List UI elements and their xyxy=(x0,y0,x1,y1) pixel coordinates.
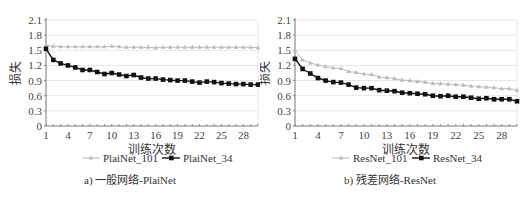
data-point xyxy=(392,89,397,94)
y-axis-title: 损失 xyxy=(260,61,272,85)
y-tick-label: 0.9 xyxy=(277,75,291,87)
x-tick-label: 7 xyxy=(338,129,344,141)
data-point xyxy=(58,61,63,66)
data-point xyxy=(293,57,298,62)
data-point xyxy=(102,72,107,77)
x-tick-label: 10 xyxy=(358,129,370,141)
x-tick-label: 10 xyxy=(106,129,118,141)
data-point xyxy=(300,67,305,72)
data-point xyxy=(308,71,313,76)
data-point xyxy=(80,68,85,73)
data-point xyxy=(241,82,246,87)
x-tick-label: 19 xyxy=(172,129,184,141)
x-tick-label: 1 xyxy=(43,129,49,141)
y-tick-label: 0.6 xyxy=(277,90,291,102)
data-point xyxy=(476,96,481,101)
data-point xyxy=(175,78,180,83)
data-point xyxy=(484,96,489,101)
data-point xyxy=(95,70,100,75)
line-chart-resnet: 00.30.60.91.21.51.82.114710131619222528训… xyxy=(260,0,520,199)
x-tick-label: 16 xyxy=(150,129,162,141)
data-point xyxy=(385,88,390,93)
data-point xyxy=(438,94,443,99)
data-point xyxy=(415,91,420,96)
data-point xyxy=(234,82,239,87)
data-point xyxy=(117,72,122,77)
data-point xyxy=(109,71,114,76)
data-point xyxy=(226,81,231,86)
data-point xyxy=(408,91,413,96)
data-point xyxy=(44,46,49,51)
data-point xyxy=(323,78,328,83)
y-axis-title: 损失 xyxy=(8,61,23,85)
data-point xyxy=(430,93,435,98)
data-point xyxy=(446,93,451,98)
data-point xyxy=(248,82,253,87)
data-point xyxy=(400,90,405,95)
y-tick-label: 1.8 xyxy=(28,29,42,41)
x-tick-label: 25 xyxy=(216,129,228,141)
chart-caption: b) 残差网络-ResNet xyxy=(344,173,436,187)
legend: PlaiNet_101PlaiNet_34 xyxy=(82,152,233,164)
y-tick-label: 0 xyxy=(37,120,43,132)
chart-panel-plainet: 00.30.60.91.21.51.82.114710131619222528训… xyxy=(0,0,260,199)
data-point xyxy=(499,97,504,102)
legend-label: ResNet_34 xyxy=(433,152,482,164)
data-point xyxy=(109,44,114,48)
data-point xyxy=(377,88,382,93)
y-tick-label: 1.5 xyxy=(277,44,291,56)
y-tick-label: 0.9 xyxy=(28,75,42,87)
data-point xyxy=(183,78,188,83)
y-tick-label: 1.2 xyxy=(277,59,291,71)
data-point xyxy=(219,81,224,86)
data-point xyxy=(153,76,158,81)
x-tick-label: 16 xyxy=(404,129,416,141)
x-tick-label: 22 xyxy=(194,129,205,141)
x-tick-label: 25 xyxy=(473,129,485,141)
data-point xyxy=(168,78,173,83)
data-point xyxy=(453,94,458,99)
x-tick-label: 1 xyxy=(292,129,298,141)
legend: ResNet_101ResNet_34 xyxy=(332,152,482,164)
x-tick-label: 19 xyxy=(427,129,439,141)
x-tick-label: 22 xyxy=(450,129,461,141)
data-point xyxy=(66,63,71,68)
legend-label: ResNet_101 xyxy=(353,152,407,164)
y-tick-label: 1.8 xyxy=(277,29,291,41)
legend-label: PlaiNet_34 xyxy=(183,152,233,164)
series-PlaiNet_101 xyxy=(44,43,260,50)
data-point xyxy=(469,95,474,100)
data-point xyxy=(423,92,428,97)
y-tick-label: 1.2 xyxy=(28,59,42,71)
data-point xyxy=(461,94,466,99)
x-tick-label: 28 xyxy=(496,129,508,141)
x-tick-label: 7 xyxy=(87,129,93,141)
data-point xyxy=(51,58,56,63)
legend-label: PlaiNet_101 xyxy=(103,152,158,164)
x-tick-label: 28 xyxy=(238,129,250,141)
data-point xyxy=(369,86,374,91)
y-tick-label: 0.6 xyxy=(28,90,42,102)
x-tick-label: 13 xyxy=(128,129,140,141)
data-point xyxy=(73,65,78,70)
legend-marker-square-icon xyxy=(419,156,424,161)
data-point xyxy=(316,76,321,81)
data-point xyxy=(131,73,136,78)
y-tick-label: 0 xyxy=(286,120,292,132)
x-tick-label: 4 xyxy=(315,129,321,141)
x-tick-label: 13 xyxy=(381,129,393,141)
data-point xyxy=(492,97,497,102)
y-tick-label: 2.1 xyxy=(277,14,291,26)
data-point xyxy=(197,80,202,85)
data-point xyxy=(339,80,344,85)
chart-caption: a) 一般网络-PlaiNet xyxy=(84,173,176,187)
series-ResNet_101 xyxy=(293,48,520,92)
y-tick-label: 1.5 xyxy=(28,44,42,56)
data-point xyxy=(346,82,351,87)
data-point xyxy=(190,79,195,84)
chart-panel-resnet: 00.30.60.91.21.51.82.114710131619222528训… xyxy=(260,0,520,199)
legend-marker-square-icon xyxy=(169,156,174,161)
data-point xyxy=(331,80,336,85)
data-point xyxy=(362,86,367,91)
data-point xyxy=(205,79,210,84)
